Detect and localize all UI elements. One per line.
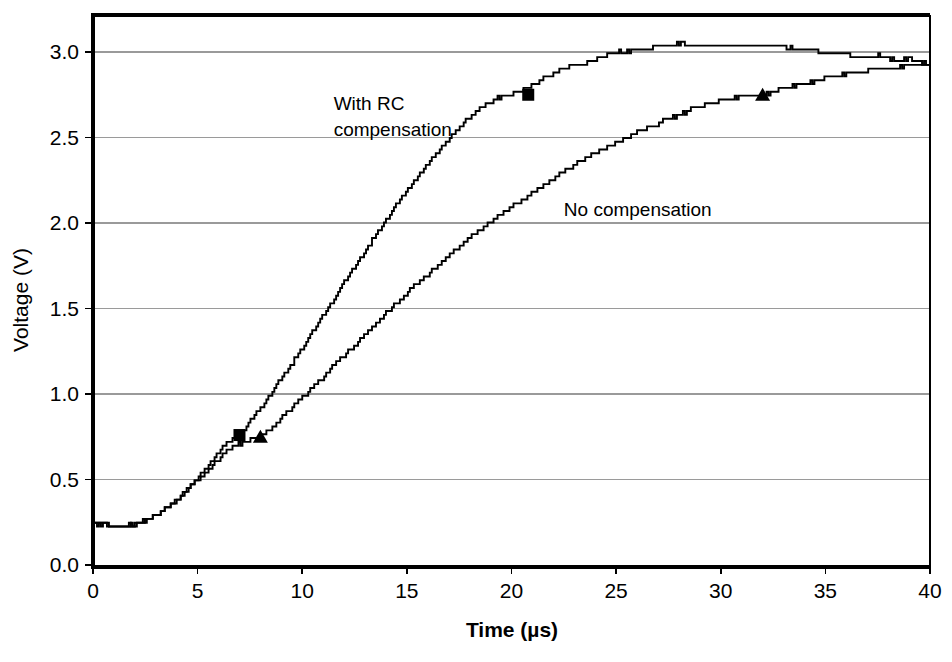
- marker-square-0-0: [233, 429, 245, 441]
- x-tick-label-20: 20: [500, 579, 523, 602]
- y-tick-label-0.5: 0.5: [50, 468, 79, 491]
- annotation-with-rc-line-0: With RC: [334, 93, 405, 114]
- x-tick-label-35: 35: [814, 579, 837, 602]
- y-tick-label-2.5: 2.5: [50, 126, 79, 149]
- x-tick-label-0: 0: [87, 579, 99, 602]
- voltage-time-chart: 0510152025303540 0.00.51.01.52.02.53.0 W…: [0, 0, 952, 662]
- x-tick-label-5: 5: [192, 579, 204, 602]
- x-tick-label-10: 10: [291, 579, 314, 602]
- x-tick-label-15: 15: [395, 579, 418, 602]
- chart-background: [0, 0, 952, 662]
- marker-square-0-1: [522, 89, 534, 101]
- y-tick-label-2.0: 2.0: [50, 211, 79, 234]
- x-tick-label-40: 40: [918, 579, 941, 602]
- y-tick-label-3.0: 3.0: [50, 40, 79, 63]
- y-tick-label-1.0: 1.0: [50, 382, 79, 405]
- y-axis-title: Voltage (V): [9, 248, 32, 352]
- y-tick-label-1.5: 1.5: [50, 297, 79, 320]
- annotation-with-rc-line-1: compensation: [334, 119, 452, 140]
- x-tick-label-25: 25: [604, 579, 627, 602]
- x-axis-title: Time (µs): [466, 618, 558, 641]
- chart-container: 0510152025303540 0.00.51.01.52.02.53.0 W…: [0, 0, 952, 662]
- annotation-no-comp-line-0: No compensation: [564, 199, 712, 220]
- x-tick-label-30: 30: [709, 579, 732, 602]
- annotation-no-comp: No compensation: [564, 199, 712, 220]
- y-tick-label-0.0: 0.0: [50, 553, 79, 576]
